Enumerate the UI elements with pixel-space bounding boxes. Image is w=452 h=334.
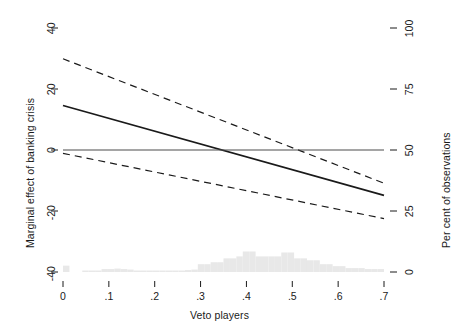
x-tick-label: .4 bbox=[242, 290, 251, 302]
x-axis-label: Veto players bbox=[190, 309, 249, 321]
histogram-bar bbox=[275, 256, 281, 272]
histogram-bar bbox=[166, 271, 172, 272]
histogram-bar bbox=[211, 262, 217, 272]
histogram-bar bbox=[179, 271, 185, 272]
y-axis-label-right: Per cent of observations bbox=[440, 132, 452, 248]
histogram-bar bbox=[108, 269, 114, 272]
y-tick-label-left: -40 bbox=[45, 266, 57, 281]
y-tick-label-right: 75 bbox=[403, 84, 415, 96]
histogram-series bbox=[63, 252, 384, 273]
histogram-bar bbox=[159, 271, 165, 272]
histogram-bar bbox=[153, 271, 159, 272]
histogram-bar bbox=[230, 258, 236, 272]
histogram-bar bbox=[172, 271, 178, 272]
histogram-bar bbox=[371, 269, 377, 272]
histogram-bar bbox=[243, 252, 249, 273]
histogram-bar bbox=[378, 269, 384, 272]
line-series bbox=[63, 59, 384, 219]
y-tick-label-left: 40 bbox=[45, 23, 57, 35]
histogram-bar bbox=[185, 270, 191, 272]
histogram-bar bbox=[95, 271, 101, 272]
histogram-bar bbox=[134, 271, 140, 272]
histogram-bar bbox=[249, 252, 255, 273]
histogram-bar bbox=[320, 264, 326, 272]
y-tick-label-left: 20 bbox=[45, 84, 57, 96]
histogram-bar bbox=[345, 268, 351, 272]
axis-ticks bbox=[51, 28, 397, 287]
y-tick-label-right: 50 bbox=[403, 145, 415, 157]
histogram-bar bbox=[82, 271, 88, 272]
histogram-bar bbox=[294, 258, 300, 272]
histogram-bar bbox=[333, 266, 339, 272]
x-tick-label: 0 bbox=[60, 290, 66, 302]
x-tick-label: .5 bbox=[288, 290, 297, 302]
histogram-bar bbox=[217, 262, 223, 272]
histogram-bar bbox=[204, 264, 210, 272]
histogram-bar bbox=[262, 256, 268, 272]
histogram-bar bbox=[198, 264, 204, 272]
x-tick-label: .6 bbox=[334, 290, 343, 302]
histogram-bar bbox=[121, 269, 127, 272]
histogram-bar bbox=[307, 260, 313, 272]
histogram-bar bbox=[236, 256, 242, 272]
histogram-bar bbox=[365, 269, 371, 272]
histogram-bar bbox=[313, 260, 319, 272]
histogram-bar bbox=[146, 271, 152, 272]
histogram-bar bbox=[301, 258, 307, 272]
histogram-bar bbox=[63, 266, 69, 272]
x-tick-label: .1 bbox=[104, 290, 113, 302]
histogram-bar bbox=[224, 258, 230, 272]
histogram-bar bbox=[114, 269, 120, 272]
histogram-bar bbox=[191, 270, 197, 272]
x-tick-label: .7 bbox=[380, 290, 389, 302]
histogram-bar bbox=[358, 268, 364, 272]
histogram-bar bbox=[140, 271, 146, 272]
histogram-bar bbox=[102, 269, 108, 272]
histogram-bar bbox=[256, 256, 262, 272]
histogram-bar bbox=[339, 266, 345, 272]
x-tick-label: .2 bbox=[150, 290, 159, 302]
y-tick-label-left: -20 bbox=[45, 205, 57, 220]
series-line bbox=[63, 59, 384, 183]
histogram-bar bbox=[127, 270, 133, 272]
y-tick-label-right: 0 bbox=[403, 269, 415, 275]
y-axis-label-left: Marginal effect of banking crisis bbox=[24, 98, 36, 248]
histogram-bar bbox=[326, 264, 332, 272]
histogram-bar bbox=[352, 268, 358, 272]
y-tick-label-left: 0 bbox=[45, 147, 57, 153]
series-line bbox=[63, 153, 384, 218]
histogram-bar bbox=[89, 271, 95, 272]
y-tick-label-right: 100 bbox=[403, 20, 415, 38]
histogram-bar bbox=[281, 252, 287, 272]
y-tick-label-right: 25 bbox=[403, 206, 415, 218]
histogram-bar bbox=[288, 252, 294, 272]
x-tick-label: .3 bbox=[196, 290, 205, 302]
histogram-bar bbox=[268, 256, 274, 272]
